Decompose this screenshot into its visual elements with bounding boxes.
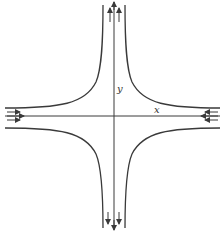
axes (5, 2, 220, 230)
streamline-lower-left (5, 128, 103, 228)
streamline-upper-left (5, 5, 103, 108)
x-axis-label: x (154, 104, 160, 115)
flow-diagram: y x (0, 0, 224, 232)
y-axis-label: y (116, 83, 123, 94)
streamline-lower-right (125, 128, 220, 228)
streamline-upper-right (125, 5, 220, 108)
